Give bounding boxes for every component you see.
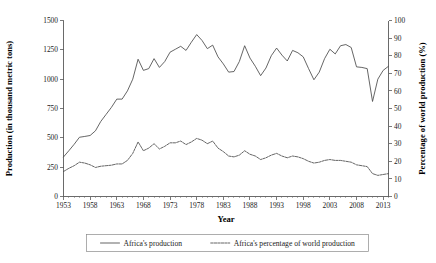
- x-axis-ticks: 1953195819631968197319781983198819931998…: [56, 197, 391, 211]
- right-tick-label: 70: [394, 69, 402, 78]
- chart-legend: Africa's productionAfrica's percentage o…: [87, 235, 369, 252]
- left-tick-label: 250: [47, 163, 58, 172]
- x-tick-label: 1978: [189, 201, 204, 210]
- x-tick-label: 1998: [296, 201, 311, 210]
- right-tick-label: 90: [394, 34, 402, 43]
- x-tick-label: 1958: [83, 201, 98, 210]
- right-tick-label: 40: [394, 122, 402, 131]
- x-tick-label: 1973: [163, 201, 178, 210]
- x-tick-label: 1953: [56, 201, 71, 210]
- right-tick-label: 100: [394, 16, 405, 25]
- legend-label-0: Africa's production: [124, 239, 183, 248]
- chart-figure: 0250500750100012501500 01020304050607080…: [0, 0, 436, 263]
- left-tick-label: 1500: [43, 16, 58, 25]
- right-axis-ticks: 0102030405060708090100: [389, 16, 406, 201]
- x-tick-label: 1983: [216, 201, 231, 210]
- left-tick-label: 0: [54, 192, 58, 201]
- right-tick-label: 80: [394, 51, 402, 60]
- line-chart: 0250500750100012501500 01020304050607080…: [0, 0, 436, 263]
- x-tick-label: 1993: [269, 201, 284, 210]
- x-tick-label: 1963: [109, 201, 124, 210]
- data-series-group: [64, 35, 389, 176]
- left-tick-label: 1000: [43, 75, 58, 84]
- right-tick-label: 10: [394, 175, 402, 184]
- x-tick-label: 1988: [243, 201, 258, 210]
- right-tick-label: 20: [394, 157, 402, 166]
- legend-label-1: Africa's percentage of world production: [234, 239, 355, 248]
- left-axis-title: Production (in thousand metric tons): [4, 41, 14, 177]
- left-axis-ticks: 0250500750100012501500: [43, 16, 63, 201]
- right-tick-label: 30: [394, 139, 402, 148]
- left-tick-label: 500: [47, 133, 58, 142]
- series-line-1: [64, 138, 389, 175]
- x-tick-label: 2013: [376, 201, 391, 210]
- x-tick-label: 2003: [323, 201, 338, 210]
- series-line-0: [64, 35, 389, 157]
- left-tick-label: 1250: [43, 45, 58, 54]
- right-tick-label: 60: [394, 87, 402, 96]
- x-axis-title: Year: [217, 214, 234, 224]
- x-tick-label: 2008: [349, 201, 364, 210]
- x-tick-label: 1968: [136, 201, 151, 210]
- right-axis-title: Percentage of world production (%): [417, 42, 427, 175]
- right-tick-label: 50: [394, 104, 402, 113]
- right-tick-label: 0: [394, 192, 398, 201]
- left-tick-label: 750: [47, 104, 58, 113]
